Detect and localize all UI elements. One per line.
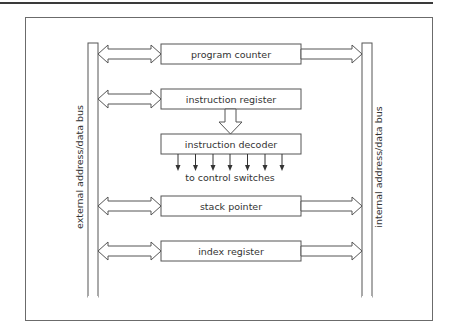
down-arrow-icon [193, 154, 198, 171]
down-arrow-icon [176, 154, 181, 171]
instruction-decoder-label: instruction decoder [185, 139, 277, 150]
stack-pointer-label: stack pointer [200, 201, 262, 212]
internal-bus-label: internal address/data bus [373, 106, 384, 227]
down-arrow-icon [280, 154, 285, 171]
external-bus [88, 43, 98, 297]
down-arrow-icon [211, 154, 216, 171]
right-arrow-icon [301, 45, 362, 63]
right-arrow-icon [301, 197, 362, 215]
bidirectional-arrow-icon [98, 90, 161, 108]
internal-bus [362, 43, 372, 297]
right-arrow-icon [301, 242, 362, 260]
down-arrow-icon [219, 109, 242, 134]
control-output-arrows [176, 154, 285, 171]
bidirectional-arrow-icon [98, 45, 161, 63]
row-instruction-register: instruction register [98, 89, 301, 134]
bidirectional-arrow-icon [98, 242, 161, 260]
row-instruction-decoder: instruction decoder to control switches [161, 134, 301, 183]
row-stack-pointer: stack pointer [98, 196, 362, 216]
index-register-label: index register [198, 246, 264, 257]
down-arrow-icon [245, 154, 250, 171]
down-arrow-icon [263, 154, 268, 171]
instruction-register-label: instruction register [186, 94, 276, 105]
row-index-register: index register [98, 241, 362, 261]
control-switches-label: to control switches [185, 172, 275, 183]
program-counter-label: program counter [191, 49, 271, 60]
external-bus-label: external address/data bus [74, 105, 85, 229]
down-arrow-icon [228, 154, 233, 171]
row-program-counter: program counter [98, 44, 362, 64]
cpu-diagram: external address/data bus internal addre… [0, 0, 453, 336]
bidirectional-arrow-icon [98, 197, 161, 215]
